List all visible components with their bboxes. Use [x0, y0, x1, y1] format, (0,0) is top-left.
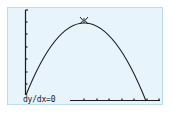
parabola-curve	[26, 23, 146, 101]
x-axis	[70, 99, 160, 101]
derivative-readout: dy/dx=0	[23, 95, 56, 104]
y-axis	[26, 10, 29, 96]
trace-cursor-icon	[80, 17, 88, 24]
